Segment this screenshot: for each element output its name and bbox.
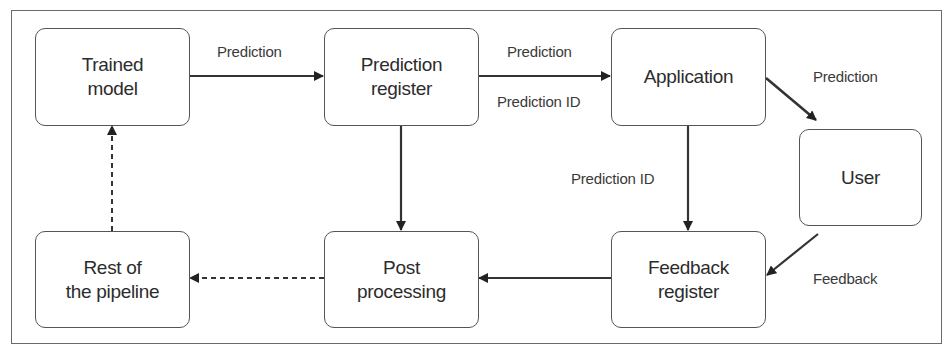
label-model-to-register: Prediction	[217, 43, 282, 60]
label-app-to-feedback: Prediction ID	[571, 170, 654, 187]
node-application: Application	[611, 28, 766, 126]
node-post-processing: Post processing	[324, 231, 479, 328]
node-trained-model: Trained model	[35, 28, 190, 126]
label-user-to-feedback: Feedback	[813, 270, 877, 287]
label-register-to-app-bottom: Prediction ID	[497, 93, 580, 110]
node-feedback-register: Feedback register	[611, 231, 766, 328]
arrow-application-to-user	[766, 78, 816, 120]
arrow-user-to-feedback	[767, 234, 818, 275]
label-register-to-app-top: Prediction	[507, 43, 572, 60]
node-user: User	[799, 129, 922, 226]
node-rest-of-pipeline: Rest of the pipeline	[35, 231, 190, 328]
label-app-to-user: Prediction	[813, 68, 878, 85]
node-prediction-register: Prediction register	[324, 28, 479, 126]
